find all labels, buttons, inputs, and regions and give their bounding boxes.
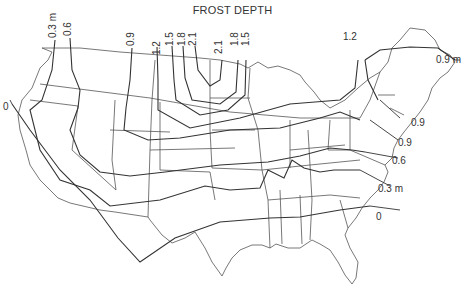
label-0.3m: 0.3 m bbox=[47, 13, 58, 38]
label-1.2: 1.2 bbox=[151, 41, 162, 55]
frost-depth-map: 0.3 m 0.6 0.9 1.2 1.5 1.8 2.1 2.1 1.8 1.… bbox=[0, 0, 465, 289]
label-1.8: 1.8 bbox=[176, 32, 187, 46]
label-1.5-b: 1.5 bbox=[240, 32, 251, 46]
right-labels: 0.9 m 0.9 0.9 0.6 0.3 m 0 bbox=[376, 54, 461, 222]
frost-contours bbox=[12, 38, 455, 262]
label-0.6-east: 0.6 bbox=[392, 155, 406, 166]
label-2.1: 2.1 bbox=[187, 32, 198, 46]
label-0.3m-east: 0.3 m bbox=[378, 183, 403, 194]
label-2.1-b: 2.1 bbox=[213, 40, 224, 54]
label-0.9: 0.9 bbox=[125, 32, 136, 46]
label-0-east: 0 bbox=[376, 211, 382, 222]
label-0.9-east-b: 0.9 bbox=[398, 137, 412, 148]
label-1.2-ne: 1.2 bbox=[343, 31, 357, 42]
label-0.9-east-a: 0.9 bbox=[411, 117, 425, 128]
label-1.8-b: 1.8 bbox=[229, 32, 240, 46]
label-0-west: 0 bbox=[3, 101, 9, 112]
top-labels: 0.3 m 0.6 0.9 1.2 1.5 1.8 2.1 2.1 1.8 1.… bbox=[47, 13, 357, 55]
label-0.9m-east: 0.9 m bbox=[436, 54, 461, 65]
label-1.5: 1.5 bbox=[164, 32, 175, 46]
label-0.6: 0.6 bbox=[62, 22, 73, 36]
